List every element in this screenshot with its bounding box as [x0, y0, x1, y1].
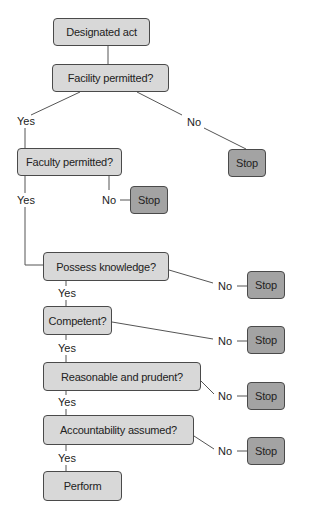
node-reasonable-prudent: Reasonable and prudent? [43, 362, 201, 391]
node-stop-knowledge: Stop [247, 271, 285, 299]
label-yes-accountability: Yes [58, 452, 76, 464]
label-yes-facility: Yes [17, 115, 35, 127]
label-no-facility: No [187, 116, 201, 128]
label-no-accountability: No [218, 445, 232, 457]
node-stop-accountability: Stop [247, 437, 285, 465]
node-faculty-permitted: Faculty permitted? [17, 148, 122, 176]
node-accountability-assumed: Accountability assumed? [43, 415, 194, 445]
label-no-reasonable: No [218, 390, 232, 402]
node-stop-facility: Stop [228, 149, 266, 177]
label-no-competent: No [218, 335, 232, 347]
label-yes-faculty: Yes [17, 194, 35, 206]
label-no-faculty: No [102, 194, 116, 206]
node-designated-act: Designated act [53, 18, 150, 46]
node-competent: Competent? [43, 306, 112, 335]
node-perform: Perform [43, 471, 122, 501]
label-no-knowledge: No [218, 280, 232, 292]
label-yes-knowledge: Yes [58, 287, 76, 299]
node-possess-knowledge: Possess knowledge? [43, 252, 169, 281]
node-stop-faculty: Stop [130, 186, 168, 214]
node-facility-permitted: Facility permitted? [52, 64, 169, 92]
node-stop-reasonable: Stop [247, 382, 285, 410]
label-yes-competent: Yes [58, 342, 76, 354]
label-yes-reasonable: Yes [58, 396, 76, 408]
node-stop-competent: Stop [247, 326, 285, 354]
